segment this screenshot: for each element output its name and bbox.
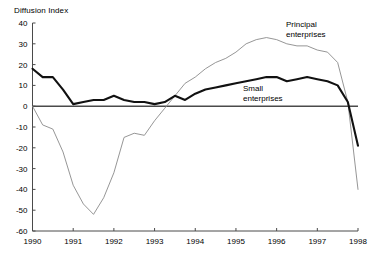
principal-enterprises-label: Principalenterprises [286, 20, 326, 39]
x-tick-label: 1996 [268, 237, 286, 246]
line-chart-plot: 403020100-10-20-30-40-50-60 199019911992… [0, 0, 373, 254]
x-tick-label: 1995 [227, 237, 245, 246]
y-tick-label: -40 [16, 185, 28, 194]
y-tick-label: -20 [16, 144, 28, 153]
x-tick-label: 1991 [64, 237, 82, 246]
y-axis-tick-labels: 403020100-10-20-30-40-50-60 [16, 19, 28, 236]
small-enterprises-label: Smallenterprises [243, 84, 283, 103]
y-tick-label: -10 [16, 123, 28, 132]
y-tick-label: 10 [19, 81, 28, 90]
data-series-layer [33, 38, 359, 215]
x-tick-label: 1998 [349, 237, 367, 246]
y-tick-label: 20 [19, 61, 28, 70]
x-tick-label: 1990 [24, 237, 42, 246]
y-axis-title: Diffusion Index [14, 6, 68, 15]
y-tick-label: 40 [19, 19, 28, 28]
series-annotations: PrincipalenterprisesSmallenterprises [243, 20, 326, 103]
series-line-small [33, 69, 359, 146]
x-tick-label: 1992 [105, 237, 123, 246]
chart-figure: Diffusion Index 403020100-10-20-30-40-50… [0, 0, 373, 254]
y-tick-label: -60 [16, 227, 28, 236]
y-tick-label: -30 [16, 165, 28, 174]
y-tick-label: 0 [23, 102, 28, 111]
x-tick-label: 1997 [308, 237, 326, 246]
y-tick-label: 30 [19, 40, 28, 49]
series-line-principal [33, 38, 359, 215]
x-tick-label: 1993 [146, 237, 164, 246]
x-axis-tick-labels: 199019911992199319941995199619971998 [24, 237, 368, 246]
x-tick-label: 1994 [186, 237, 204, 246]
y-tick-label: -50 [16, 206, 28, 215]
